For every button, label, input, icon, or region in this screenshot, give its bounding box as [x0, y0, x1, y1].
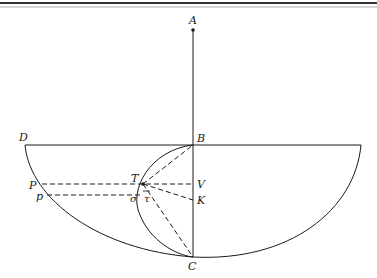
label-C: C	[188, 260, 197, 273]
dash-TK	[143, 184, 193, 200]
point-T	[141, 182, 145, 186]
point-A	[191, 28, 195, 32]
label-p: p	[36, 190, 43, 203]
dash-TC	[143, 184, 193, 257]
label-sigma: σ	[130, 193, 138, 204]
label-T: T	[131, 172, 140, 185]
label-tau: τ	[144, 193, 150, 204]
diagram: A B D C T V K P p σ τ	[0, 0, 377, 278]
label-V: V	[197, 178, 206, 191]
label-A: A	[188, 14, 197, 27]
label-B: B	[196, 132, 205, 145]
dash-TB	[143, 145, 193, 184]
label-D: D	[18, 131, 28, 144]
label-K: K	[196, 194, 206, 207]
